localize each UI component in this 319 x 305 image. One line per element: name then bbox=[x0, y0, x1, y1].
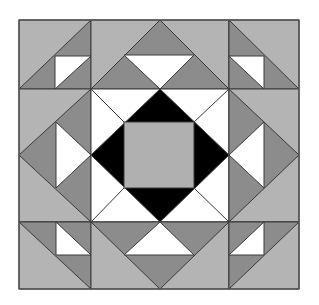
quilt-diagram bbox=[0, 0, 319, 305]
block-edge-right bbox=[229, 89, 299, 222]
block-corner-bottom-right bbox=[229, 222, 299, 289]
block-center bbox=[91, 89, 229, 222]
block-corner-bottom-left bbox=[19, 222, 91, 289]
block-corner-top-right bbox=[229, 20, 299, 89]
block-corner-top-left bbox=[19, 20, 91, 89]
block-edge-bottom bbox=[91, 222, 229, 289]
block-edge-left bbox=[19, 89, 91, 222]
block-edge-top bbox=[91, 20, 229, 89]
